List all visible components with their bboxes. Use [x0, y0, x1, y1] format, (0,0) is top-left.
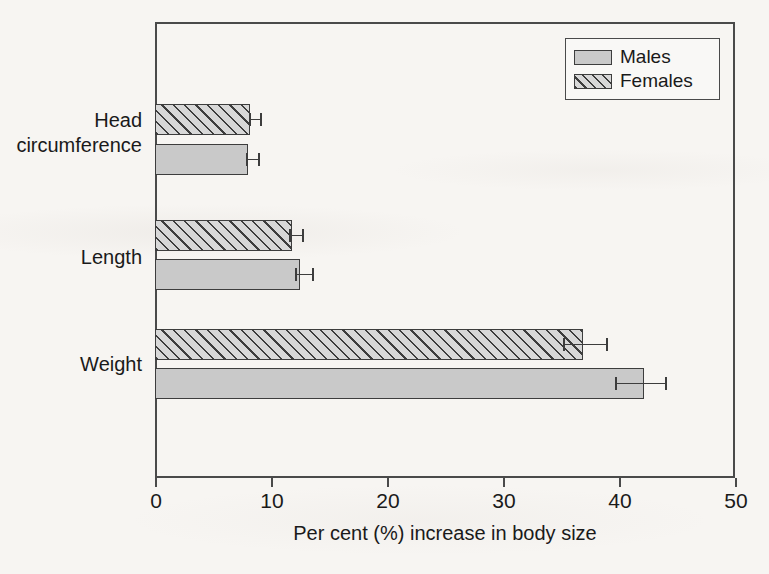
bar-length-males [155, 259, 300, 290]
bar-chart-figure: Head circumference Length Weight [0, 0, 769, 574]
xtick-40 [619, 478, 621, 487]
errorbar-head-circumference-females [246, 104, 266, 135]
legend-label-females: Females [620, 70, 693, 92]
legend-label-males: Males [620, 46, 671, 68]
errorbar-cap-low [615, 377, 617, 390]
errorbar-length-females [286, 220, 310, 251]
category-label-head-circumference: Head circumference [0, 108, 150, 158]
errorbar-cap-high [606, 338, 608, 351]
xtick-50 [735, 478, 737, 487]
errorbar-cap-high [260, 113, 262, 126]
legend-swatch-males-icon [574, 50, 612, 65]
legend-swatch-females-icon [574, 74, 612, 89]
xtick-label-50: 50 [706, 489, 766, 513]
errorbar-whisker [615, 383, 667, 385]
category-label-weight-text: Weight [0, 352, 142, 377]
legend-item-males: Males [574, 45, 711, 69]
xtick-label-10: 10 [242, 489, 302, 513]
xtick-label-30: 30 [474, 489, 534, 513]
bar-weight-males [155, 368, 644, 399]
chart-legend: Males Females [565, 38, 720, 100]
category-label-head-line1: Head [0, 108, 142, 133]
xtick-label-0: 0 [126, 489, 186, 513]
errorbar-cap-low [249, 113, 251, 126]
xtick-10 [271, 478, 273, 487]
category-label-length: Length [0, 245, 150, 270]
errorbar-cap-high [312, 268, 314, 281]
errorbar-cap-high [258, 153, 260, 166]
errorbar-weight-females [560, 329, 615, 360]
errorbar-weight-males [612, 368, 674, 399]
legend-item-females: Females [574, 69, 711, 93]
category-label-weight: Weight [0, 352, 150, 377]
bar-length-females [155, 220, 292, 251]
xtick-0 [155, 478, 157, 487]
x-axis-title: Per cent (%) increase in body size [155, 522, 735, 545]
category-label-length-text: Length [0, 245, 142, 270]
bar-weight-females [155, 329, 583, 360]
xtick-label-20: 20 [358, 489, 418, 513]
errorbar-cap-high [665, 377, 667, 390]
bar-head-circumference-females [155, 104, 250, 135]
errorbar-cap-low [289, 229, 291, 242]
xtick-30 [503, 478, 505, 487]
errorbar-head-circumference-males [242, 144, 266, 175]
errorbar-cap-low [246, 153, 248, 166]
errorbar-cap-low [295, 268, 297, 281]
bar-head-circumference-males [155, 144, 248, 175]
errorbar-length-males [292, 259, 320, 290]
errorbar-cap-high [302, 229, 304, 242]
category-label-head-line2: circumference [0, 133, 142, 158]
errorbar-whisker [563, 344, 608, 346]
errorbar-cap-low [563, 338, 565, 351]
xtick-20 [387, 478, 389, 487]
xtick-label-40: 40 [590, 489, 650, 513]
